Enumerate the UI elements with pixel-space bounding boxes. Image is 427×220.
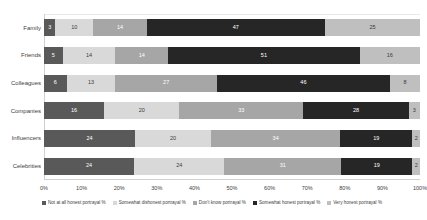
x-axis-tick-label: 40% — [189, 186, 200, 192]
x-axis-tick-label: 50% — [226, 186, 237, 192]
bar-track: 242034192 — [44, 130, 420, 147]
legend-item[interactable]: Somewhat honest portrayal % — [253, 201, 320, 206]
bar-segment: 28 — [303, 102, 408, 119]
bar-segment: 24 — [134, 158, 224, 175]
bar-segment: 19 — [341, 158, 412, 175]
x-axis-tick-label: 90% — [377, 186, 388, 192]
bar-segment: 2 — [412, 130, 420, 147]
legend-swatch-icon — [327, 201, 331, 205]
legend-label: Somewhat dishonest portrayal % — [119, 201, 186, 206]
bar-segment: 34 — [211, 130, 340, 147]
bar-segment: 16 — [44, 102, 104, 119]
bar-segment: 16 — [360, 47, 420, 64]
x-axis-tick-label: 60% — [264, 186, 275, 192]
x-axis-tick-label: 100% — [413, 186, 427, 192]
bar-segment: 3 — [409, 102, 420, 119]
bar-segment: 6 — [44, 75, 67, 92]
category-label: Influencers — [0, 135, 44, 141]
plot-area: Family310144725Friends514145116Colleague… — [0, 10, 424, 186]
bar-segment: 20 — [104, 102, 179, 119]
bar-segment: 2 — [412, 158, 420, 175]
bar-segment: 13 — [67, 75, 116, 92]
category-label: Companies — [0, 108, 44, 114]
legend-swatch-icon — [42, 201, 46, 205]
bar-track: 162033283 — [44, 102, 420, 119]
legend-item[interactable]: Don't know portrayal % — [193, 201, 246, 206]
x-axis-tick-label: 10% — [76, 186, 87, 192]
bar-rows: Family310144725Friends514145116Colleague… — [0, 14, 420, 180]
x-axis-tick-label: 70% — [302, 186, 313, 192]
x-axis-tick-label: 80% — [339, 186, 350, 192]
bar-row: Friends514145116 — [0, 47, 420, 64]
bar-segment: 27 — [115, 75, 217, 92]
bar-row: Influencers242034192 — [0, 130, 420, 147]
bar-segment: 19 — [340, 130, 412, 147]
category-label: Family — [0, 25, 44, 31]
bar-row: Celebrities242431192 — [0, 158, 420, 175]
category-label: Celebrities — [0, 163, 44, 169]
bar-segment: 47 — [147, 19, 326, 36]
x-axis-tick-label: 20% — [114, 186, 125, 192]
x-axis-tick-label: 30% — [151, 186, 162, 192]
legend-label: Not at all honest portrayal % — [48, 201, 106, 206]
bar-segment: 14 — [93, 19, 146, 36]
bar-segment: 14 — [115, 47, 168, 64]
bar-segment: 8 — [390, 75, 420, 92]
bar-row: Companies162033283 — [0, 102, 420, 119]
bar-track: 242431192 — [44, 158, 420, 175]
x-axis-ticks: 0%10%20%30%40%50%60%70%80%90%100% — [44, 186, 420, 196]
category-label: Friends — [0, 52, 44, 58]
legend-item[interactable]: Very honest portrayal % — [327, 201, 382, 206]
legend-swatch-icon — [113, 201, 117, 205]
bar-track: 61327468 — [44, 75, 420, 92]
legend-swatch-icon — [253, 201, 257, 205]
bar-segment: 3 — [44, 19, 55, 36]
bar-segment: 5 — [44, 47, 63, 64]
category-label: Colleagues — [0, 80, 44, 86]
legend-label: Very honest portrayal % — [333, 201, 382, 206]
bar-row: Family310144725 — [0, 19, 420, 36]
bar-segment: 33 — [179, 102, 303, 119]
x-axis-tick-label: 0% — [40, 186, 48, 192]
bar-segment: 24 — [44, 130, 135, 147]
bar-segment: 24 — [44, 158, 134, 175]
bar-segment: 51 — [168, 47, 360, 64]
bar-segment: 14 — [63, 47, 116, 64]
legend-label: Somewhat honest portrayal % — [259, 201, 320, 206]
legend-item[interactable]: Not at all honest portrayal % — [42, 201, 106, 206]
bar-track: 514145116 — [44, 47, 420, 64]
bar-segment: 31 — [224, 158, 341, 175]
bar-segment: 46 — [217, 75, 390, 92]
bar-segment: 20 — [135, 130, 211, 147]
bar-row: Colleagues61327468 — [0, 75, 420, 92]
bar-track: 310144725 — [44, 19, 420, 36]
legend-swatch-icon — [193, 201, 197, 205]
legend-item[interactable]: Somewhat dishonest portrayal % — [113, 201, 186, 206]
bar-segment: 25 — [325, 19, 420, 36]
chart-legend: Not at all honest portrayal %Somewhat di… — [0, 201, 424, 206]
legend-label: Don't know portrayal % — [199, 201, 246, 206]
bar-segment: 10 — [55, 19, 93, 36]
